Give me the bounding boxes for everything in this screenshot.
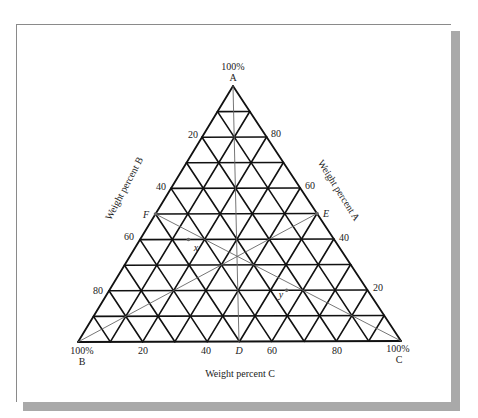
ternary-diagram: 100% A 100% B 100% C 20 40 60 80 80 60 4… bbox=[0, 0, 478, 418]
tick-b-20: 20 bbox=[188, 129, 198, 140]
vertex-a-label: A bbox=[229, 72, 237, 83]
point-y-marker bbox=[285, 288, 289, 292]
tick-b-80: 80 bbox=[93, 285, 103, 296]
point-d-label: D bbox=[234, 345, 243, 356]
tick-a-60: 60 bbox=[305, 180, 315, 191]
vertex-c-percent: 100% bbox=[386, 343, 409, 354]
point-e-label: E bbox=[322, 208, 329, 219]
tick-c-60: 60 bbox=[267, 345, 277, 356]
tick-b-60: 60 bbox=[124, 231, 134, 242]
triangle-edge-bc bbox=[78, 341, 401, 342]
tick-c-80: 80 bbox=[332, 345, 342, 356]
point-y-label: y bbox=[278, 289, 284, 300]
point-x-label: x bbox=[193, 242, 199, 253]
point-f-label: F bbox=[142, 209, 150, 220]
tick-a-40: 40 bbox=[339, 232, 349, 243]
tick-a-20: 20 bbox=[373, 282, 383, 293]
vertex-b-label: B bbox=[79, 356, 86, 367]
tick-b-40: 40 bbox=[156, 181, 166, 192]
vertex-a-percent: 100% bbox=[221, 61, 244, 72]
axis-title-c: Weight percent C bbox=[205, 368, 275, 379]
axis-title-b: Weight percent B bbox=[103, 155, 146, 222]
vertex-b-percent: 100% bbox=[70, 345, 93, 356]
point-f-marker bbox=[154, 212, 158, 216]
point-e-marker bbox=[315, 212, 319, 216]
point-x-marker bbox=[187, 238, 191, 242]
construction-line-e-b bbox=[78, 214, 317, 343]
tick-a-80: 80 bbox=[271, 128, 281, 139]
tick-c-40: 40 bbox=[201, 345, 211, 356]
tick-c-20: 20 bbox=[138, 345, 148, 356]
vertex-c-label: C bbox=[396, 354, 403, 365]
grid-line-a bbox=[94, 316, 385, 317]
construction-line-f-c bbox=[156, 214, 402, 341]
